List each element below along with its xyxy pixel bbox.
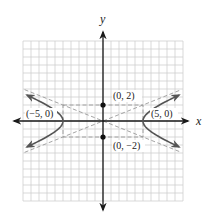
label-point-0-neg2: (0, −2) [113,140,140,152]
axes [14,32,188,210]
x-axis-label: x [195,114,202,128]
label-vertex-left: (−5, 0) [26,108,53,120]
point-marker [100,102,105,107]
y-axis-label: y [99,12,106,26]
label-point-0-2: (0, 2) [113,90,135,102]
right-branch-lower [143,121,179,147]
point-marker [100,134,105,139]
hyperbola-graph: (0, 2) (0, −2) (−5, 0) (5, 0) y x [0,0,214,220]
label-vertex-right: (5, 0) [151,108,173,120]
left-branch-lower [27,121,63,147]
